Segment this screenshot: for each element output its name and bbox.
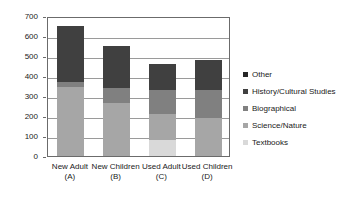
y-tick-mark — [43, 57, 46, 58]
y-tick-label: 700 — [0, 13, 38, 21]
bar-segment — [149, 90, 176, 114]
bar-column — [57, 26, 84, 156]
bar-segment — [103, 46, 130, 88]
bar-segment — [57, 26, 84, 82]
legend-label: Biographical — [252, 104, 296, 113]
legend-label: History/Cultural Studies — [252, 87, 336, 96]
x-axis-label-line1: Used Children — [182, 162, 233, 171]
bar-segment — [57, 87, 84, 156]
y-tick-mark — [43, 137, 46, 138]
y-tick-label: 400 — [0, 73, 38, 81]
y-tick-mark — [43, 77, 46, 78]
y-tick-mark — [43, 17, 46, 18]
y-tick-label: 500 — [0, 53, 38, 61]
legend-label: Science/Nature — [252, 121, 307, 130]
legend: OtherHistory/Cultural StudiesBiographica… — [243, 68, 336, 153]
bar-segment — [195, 90, 222, 118]
bar-segment — [103, 103, 130, 156]
y-tick-mark — [43, 97, 46, 98]
legend-label: Other — [252, 70, 272, 79]
legend-swatch-icon — [243, 140, 248, 145]
stacked-bar-chart: 0100200300400500600700 New Adult(A)New C… — [0, 0, 351, 203]
bar-segment — [149, 64, 176, 90]
bar-column — [149, 64, 176, 156]
legend-swatch-icon — [243, 89, 248, 94]
y-tick-mark — [43, 37, 46, 38]
bar-segment — [149, 140, 176, 156]
bar-column — [103, 46, 130, 156]
legend-item[interactable]: Other — [243, 68, 336, 81]
bar-column — [195, 60, 222, 156]
legend-item[interactable]: Textbooks — [243, 136, 336, 149]
legend-swatch-icon — [243, 72, 248, 77]
legend-label: Textbooks — [252, 138, 288, 147]
y-tick-label: 600 — [0, 33, 38, 41]
y-tick-mark — [43, 157, 46, 158]
bar-segment — [149, 114, 176, 140]
y-tick-label: 0 — [0, 153, 38, 161]
legend-item[interactable]: History/Cultural Studies — [243, 85, 336, 98]
legend-swatch-icon — [243, 106, 248, 111]
legend-item[interactable]: Biographical — [243, 102, 336, 115]
y-tick-mark — [43, 117, 46, 118]
y-tick-label: 100 — [0, 133, 38, 141]
x-axis-label: Used Children(D) — [172, 162, 242, 182]
y-tick-label: 200 — [0, 113, 38, 121]
bar-segment — [195, 60, 222, 90]
x-axis-label-line2: (D) — [172, 172, 242, 182]
bar-segment — [103, 88, 130, 103]
legend-item[interactable]: Science/Nature — [243, 119, 336, 132]
legend-swatch-icon — [243, 123, 248, 128]
bar-segment — [195, 118, 222, 156]
y-tick-label: 300 — [0, 93, 38, 101]
plot-area — [47, 17, 230, 157]
